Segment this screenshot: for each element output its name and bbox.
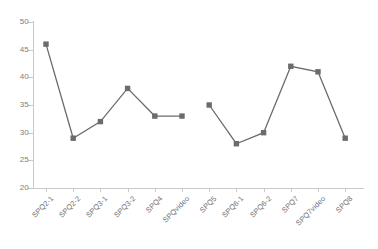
data-point-marker [207,102,212,107]
data-point-marker [261,130,266,135]
data-point-marker [234,141,239,146]
data-point-marker [152,113,157,118]
series-line [209,66,345,143]
data-point-marker [315,69,320,74]
plot-area: 20253035404550 SPQ2-1SPQ2-2SPQ3-1SPQ3-2S… [0,0,378,249]
data-point-marker [343,136,348,141]
series-line [46,44,182,138]
data-point-marker [43,41,48,46]
data-point-marker [71,136,76,141]
data-point-marker [98,119,103,124]
data-point-marker [179,113,184,118]
data-point-marker [125,86,130,91]
data-point-marker [288,64,293,69]
line-chart: 20253035404550 SPQ2-1SPQ2-2SPQ3-1SPQ3-2S… [0,0,378,249]
